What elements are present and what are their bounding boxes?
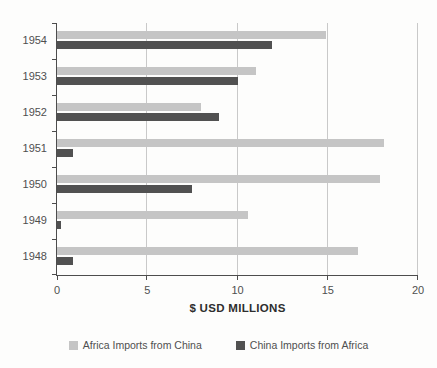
bar-group-1951: 1951 bbox=[57, 131, 418, 167]
y-axis-tick bbox=[52, 167, 56, 168]
bar-1948-china-imports-from-africa bbox=[57, 257, 73, 265]
bar-1952-africa-imports-from-china bbox=[57, 103, 201, 111]
bar-1952-china-imports-from-africa bbox=[57, 113, 219, 121]
y-axis-tick bbox=[52, 23, 56, 24]
legend-swatch-africa-imports-from-china bbox=[69, 341, 78, 350]
legend-label-africa-imports-from-china: Africa Imports from China bbox=[83, 339, 202, 351]
x-axis-tick-label-0: 0 bbox=[43, 284, 71, 296]
x-axis-tick-0 bbox=[57, 275, 58, 280]
y-axis-tick bbox=[52, 203, 56, 204]
y-axis-label-1954: 1954 bbox=[3, 35, 47, 46]
legend-label-china-imports-from-africa: China Imports from Africa bbox=[250, 339, 368, 351]
bar-group-1950: 1950 bbox=[57, 167, 418, 203]
bar-group-1949: 1949 bbox=[57, 203, 418, 239]
legend-swatch-china-imports-from-africa bbox=[236, 341, 245, 350]
bar-1951-china-imports-from-africa bbox=[57, 149, 73, 157]
x-axis-title: $ USD MILLIONS bbox=[57, 302, 418, 314]
y-axis-tick bbox=[52, 131, 56, 132]
legend-item-china-imports-from-africa: China Imports from Africa bbox=[236, 339, 368, 351]
bar-1953-africa-imports-from-china bbox=[57, 67, 256, 75]
x-axis-tick-5 bbox=[146, 275, 147, 280]
bar-group-1953: 1953 bbox=[57, 59, 418, 95]
y-axis-label-1951: 1951 bbox=[3, 143, 47, 154]
x-axis-tick-label-5: 5 bbox=[133, 284, 161, 296]
x-axis-tick-label-10: 10 bbox=[224, 284, 252, 296]
plot-area: 1954195319521951195019491948 05101520 $ … bbox=[56, 23, 418, 276]
y-axis-label-1952: 1952 bbox=[3, 107, 47, 118]
bar-group-1952: 1952 bbox=[57, 95, 418, 131]
legend: Africa Imports from China China Imports … bbox=[0, 339, 437, 351]
bar-1950-africa-imports-from-china bbox=[57, 175, 380, 183]
bar-1948-africa-imports-from-china bbox=[57, 247, 358, 255]
legend-item-africa-imports-from-china: Africa Imports from China bbox=[69, 339, 202, 351]
y-axis-label-1948: 1948 bbox=[3, 251, 47, 262]
bar-1954-africa-imports-from-china bbox=[57, 31, 326, 39]
y-axis-label-1950: 1950 bbox=[3, 179, 47, 190]
bar-1950-china-imports-from-africa bbox=[57, 185, 192, 193]
x-axis-tick-label-15: 15 bbox=[314, 284, 342, 296]
bar-1951-africa-imports-from-china bbox=[57, 139, 384, 147]
bar-1949-africa-imports-from-china bbox=[57, 211, 248, 219]
bar-1954-china-imports-from-africa bbox=[57, 41, 272, 49]
bar-group-1954: 1954 bbox=[57, 23, 418, 59]
x-axis-tick-20 bbox=[417, 275, 418, 280]
x-axis-tick-15 bbox=[327, 275, 328, 280]
bar-1953-china-imports-from-africa bbox=[57, 77, 238, 85]
y-axis-tick bbox=[52, 274, 56, 275]
y-axis-tick bbox=[52, 95, 56, 96]
y-axis-tick bbox=[52, 239, 56, 240]
x-axis-tick-10 bbox=[237, 275, 238, 280]
bar-1949-china-imports-from-africa bbox=[57, 221, 61, 229]
bar-group-1948: 1948 bbox=[57, 239, 418, 275]
y-axis-label-1953: 1953 bbox=[3, 71, 47, 82]
chart-figure: 1954195319521951195019491948 05101520 $ … bbox=[0, 0, 437, 368]
y-axis-label-1949: 1949 bbox=[3, 215, 47, 226]
x-axis-tick-label-20: 20 bbox=[404, 284, 432, 296]
y-axis-tick bbox=[52, 59, 56, 60]
